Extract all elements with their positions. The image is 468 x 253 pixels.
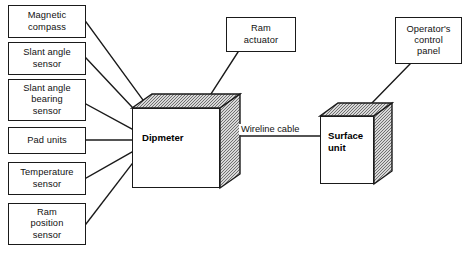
ram-actuator-box-text: actuator: [244, 35, 278, 46]
ram-actuator-box[interactable]: Ramactuator: [226, 17, 296, 52]
magnetic-compass-box-text: compass: [28, 22, 66, 33]
magnetic-compass-box-text: Magnetic: [28, 10, 67, 21]
ram-position-sensor-box-text: sensor: [33, 230, 62, 241]
pad-units-box-text: Pad units: [27, 135, 67, 146]
ram-position-sensor-box-text: Ram: [37, 207, 57, 218]
operators-control-panel-box[interactable]: Operator'scontrolpanel: [395, 17, 462, 64]
dipmeter-cube-label: Dipmeter: [142, 132, 184, 144]
slant-angle-bearing-sensor-box-text: Slant angle: [23, 83, 71, 94]
temperature-sensor-box-text: sensor: [33, 179, 62, 190]
operators-control-panel-box-text: Operator's: [406, 24, 450, 35]
ram-position-sensor-to-dipmeter: [86, 164, 132, 224]
operators-control-panel-to-surface-unit: [371, 64, 410, 104]
slant-angle-sensor-box[interactable]: Slant anglesensor: [8, 42, 86, 75]
dipmeter-cube-right-face: [220, 94, 240, 188]
surface-unit-cube-label: Surfaceunit: [328, 130, 363, 153]
ram-actuator-to-dipmeter: [209, 52, 238, 97]
dipmeter-cube-front-face: [132, 108, 220, 188]
surface-unit-cube-label-line: Surface: [328, 130, 363, 142]
dipmeter-cube[interactable]: Dipmeter: [130, 92, 242, 190]
surface-unit-cube-right-face: [374, 103, 392, 184]
surface-unit-cube[interactable]: Surfaceunit: [318, 101, 394, 186]
slant-angle-sensor-to-dipmeter: [86, 58, 132, 107]
ram-actuator-box-text: Ram: [251, 23, 271, 34]
slant-angle-bearing-sensor-to-dipmeter: [86, 104, 132, 129]
slant-angle-sensor-box-text: sensor: [33, 59, 62, 70]
block-diagram: MagneticcompassSlant anglesensorSlant an…: [0, 0, 468, 253]
slant-angle-sensor-box-text: Slant angle: [23, 47, 71, 58]
magnetic-compass-box[interactable]: Magneticcompass: [8, 5, 86, 38]
wireline-cable-label: Wireline cable: [239, 124, 301, 135]
temperature-sensor-box[interactable]: Temperaturesensor: [8, 162, 86, 195]
slant-angle-bearing-sensor-box[interactable]: Slant anglebearingsensor: [8, 79, 86, 121]
pad-units-box[interactable]: Pad units: [8, 127, 86, 154]
slant-angle-bearing-sensor-box-text: bearing: [31, 94, 63, 105]
operators-control-panel-box-text: control: [414, 35, 443, 46]
ram-position-sensor-box-text: position: [31, 218, 64, 229]
temperature-sensor-box-text: Temperature: [20, 167, 73, 178]
slant-angle-bearing-sensor-box-text: sensor: [33, 106, 62, 117]
surface-unit-cube-label-line: unit: [328, 142, 363, 154]
operators-control-panel-box-text: panel: [417, 46, 440, 57]
ram-position-sensor-box[interactable]: Rampositionsensor: [8, 203, 86, 245]
